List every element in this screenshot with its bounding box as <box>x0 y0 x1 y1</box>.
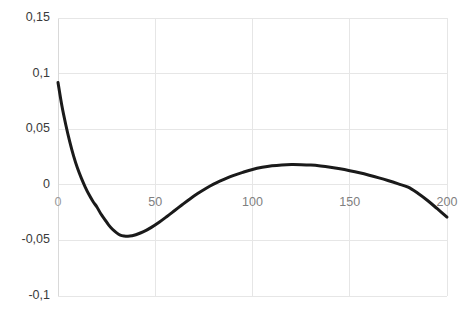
y-axis-tick-label: 0,15 <box>4 10 50 24</box>
x-axis-tick-label: 200 <box>427 195 467 209</box>
chart-container: 0,150,10,050-0,05-0,1 050100150200 <box>0 0 471 318</box>
y-axis-tick-label: -0,1 <box>4 288 50 302</box>
y-axis-tick-label: -0,05 <box>4 232 50 246</box>
x-axis-tick-label: 100 <box>233 195 273 209</box>
x-axis-tick-label: 0 <box>38 195 78 209</box>
x-axis-tick-label: 150 <box>330 195 370 209</box>
y-axis-tick-label: 0,05 <box>4 121 50 135</box>
x-axis-tick-label: 50 <box>135 195 175 209</box>
y-axis-tick-label: 0,1 <box>4 66 50 80</box>
chart-plot-svg <box>0 0 471 318</box>
y-axis-tick-label: 0 <box>4 177 50 191</box>
